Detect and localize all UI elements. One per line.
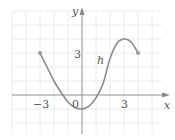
- y-tick-label-3: 3: [74, 48, 81, 61]
- x-axis-label: x: [164, 99, 171, 112]
- left-endpoint: [38, 51, 42, 55]
- y-axis-label: y: [71, 5, 79, 18]
- right-endpoint: [136, 51, 140, 55]
- x-tick-label-neg3: −3: [33, 98, 49, 111]
- origin-label: 0: [72, 98, 79, 111]
- x-tick-label-3: 3: [121, 98, 128, 111]
- function-graph: y x 0 −3 3 3 h: [0, 0, 175, 140]
- grid: [12, 11, 162, 134]
- axes: [12, 7, 170, 134]
- function-label-h: h: [97, 54, 104, 67]
- x-axis-arrow-icon: [162, 93, 170, 98]
